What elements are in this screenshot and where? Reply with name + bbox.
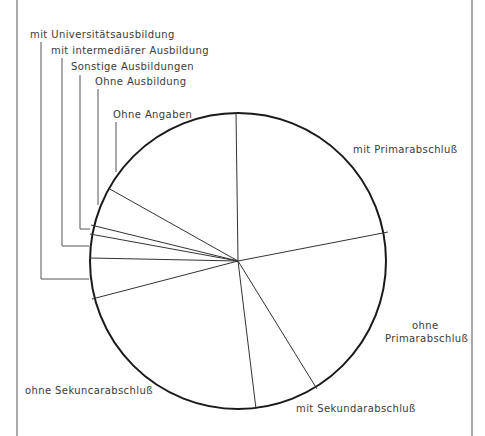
label-ohne-ausbildung: Ohne Ausbildung	[95, 76, 187, 87]
label-mit-sekundar: mit Sekundarabschluß	[296, 403, 416, 414]
pie-chart: mit Universitätsausbildung mit intermedi…	[0, 0, 485, 436]
label-ohne-primar-2: Primarabschluß	[385, 333, 468, 344]
label-uni: mit Universitätsausbildung	[30, 29, 175, 40]
label-ohne-primar-1: ohne	[412, 320, 439, 331]
label-mit-primar: mit Primarabschluß	[353, 144, 457, 155]
label-sonstige: Sonstige Ausbildungen	[71, 61, 194, 72]
label-intermediaer: mit intermediärer Ausbildung	[51, 45, 209, 56]
label-ohne-sekundar: ohne Sekuncarabschluß	[25, 385, 153, 396]
label-ohne-angaben: Ohne Angaben	[113, 109, 192, 120]
